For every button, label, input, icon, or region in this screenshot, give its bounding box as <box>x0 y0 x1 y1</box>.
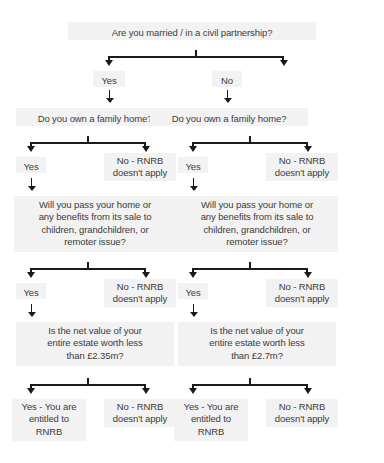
right-outcome-entitled: Yes - You are entitled to RNRB <box>174 399 248 441</box>
right-answer-no-1: No - RNRB doesn't apply <box>266 153 338 181</box>
right-answer-no-2: No - RNRB doesn't apply <box>266 279 338 307</box>
left-outcome-not-entitled: No - RNRB doesn't apply <box>104 399 176 427</box>
branch-label-no: No <box>212 71 242 87</box>
left-question-pass-home: Will you pass your home or any benefits … <box>14 196 176 252</box>
right-bracket-1 <box>192 136 308 153</box>
left-answer-yes-2: Yes <box>16 283 46 299</box>
right-question-net-value: Is the net value of your entire estate w… <box>178 322 336 366</box>
right-bracket-3 <box>192 378 308 395</box>
left-answer-no-1: No - RNRB doesn't apply <box>104 153 176 181</box>
branch-label-yes: Yes <box>93 71 125 87</box>
left-outcome-entitled: Yes - You are entitled to RNRB <box>12 399 86 441</box>
left-bracket-2 <box>30 262 146 279</box>
right-answer-yes-1: Yes <box>178 157 208 173</box>
root-bracket <box>108 50 284 67</box>
left-question-net-value: Is the net value of your entire estate w… <box>16 322 174 366</box>
decision-tree-flowchart: Are you married / in a civil partnership… <box>0 0 384 463</box>
right-question-pass-home: Will you pass your home or any benefits … <box>176 196 338 252</box>
left-bracket-3 <box>30 378 146 395</box>
right-bracket-2 <box>192 262 308 279</box>
root-question-box: Are you married / in a civil partnership… <box>68 22 316 40</box>
right-question-family-home: Do you own a family home? <box>150 108 308 126</box>
right-outcome-not-entitled: No - RNRB doesn't apply <box>266 399 338 427</box>
left-answer-no-2: No - RNRB doesn't apply <box>104 279 176 307</box>
right-answer-yes-2: Yes <box>178 283 208 299</box>
left-answer-yes-1: Yes <box>16 157 46 173</box>
left-bracket-1 <box>30 136 146 153</box>
